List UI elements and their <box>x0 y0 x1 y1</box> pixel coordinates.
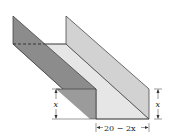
left-height-label: x <box>54 100 59 109</box>
gutter-left-wall-front-face <box>56 89 96 119</box>
right-height-dimension: x <box>154 89 162 119</box>
gutter-diagram: x x 20 − 2x <box>0 0 169 137</box>
base-width-label: 20 − 2x <box>104 124 136 133</box>
gutter-figure: x x 20 − 2x <box>0 0 169 137</box>
base-width-dimension: 20 − 2x <box>96 123 149 133</box>
right-height-label: x <box>156 100 161 109</box>
